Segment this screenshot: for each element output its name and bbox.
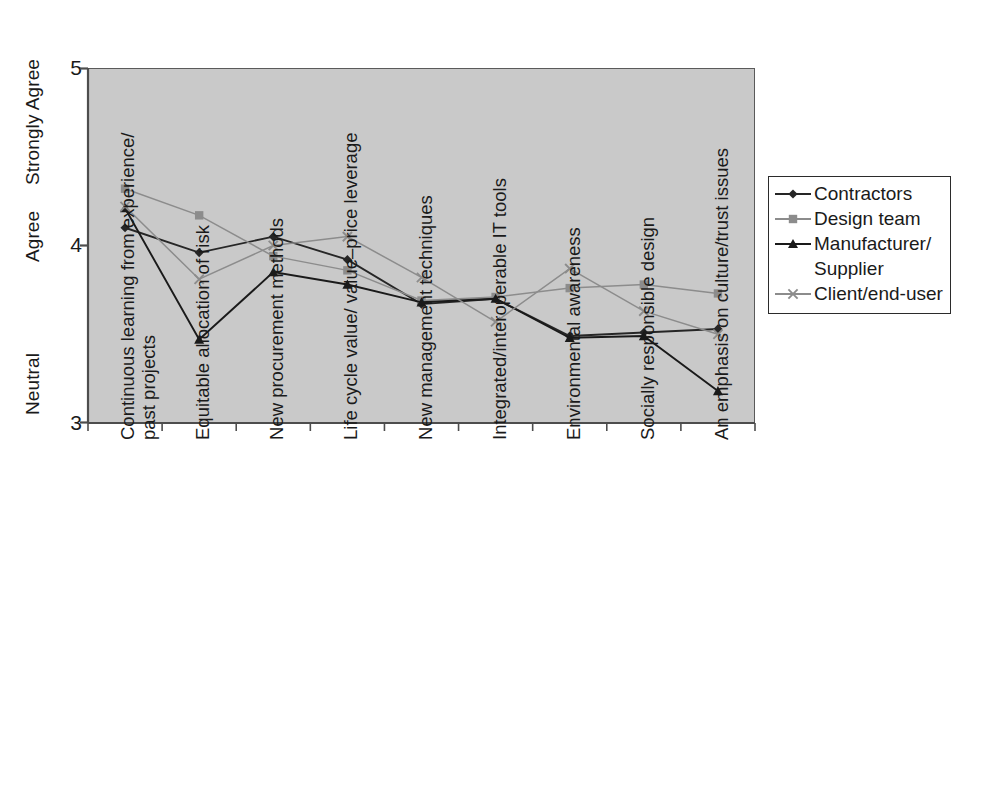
- x-axis-label-line: New procurement methods: [266, 218, 287, 440]
- legend: ContractorsDesign teamManufacturer/Suppl…: [768, 176, 951, 314]
- x-axis-label-line: Life cycle value/ value–price leverage: [340, 133, 361, 440]
- x-axis-label-1: Continuous learning from experience/past…: [117, 133, 159, 440]
- y-axis-tick-5: 5: [56, 56, 82, 80]
- data-point-square: [789, 215, 797, 223]
- x-axis-label-line: Environmental awareness: [563, 227, 584, 440]
- x-axis-label-3: New procurement methods: [266, 218, 287, 440]
- y-axis-label-strongly-agree: Strongly Agree: [22, 59, 44, 185]
- x-axis-label-2: Equitable allocation of risk: [192, 225, 213, 440]
- data-point-diamond: [788, 189, 797, 198]
- x-axis-label-7: Environmental awareness: [563, 227, 584, 440]
- x-axis-label-line: Socially responsible design: [637, 217, 658, 440]
- x-axis-label-5: New management techniques: [415, 195, 436, 440]
- x-axis-label-line: New management techniques: [415, 195, 436, 440]
- legend-marker-cross: [774, 282, 812, 305]
- legend-label-client-end-user: Client/end-user: [814, 282, 943, 305]
- x-axis-label-6: Integrated/interoperable IT tools: [489, 178, 510, 440]
- legend-item-client-end-user[interactable]: Client/end-user: [774, 282, 943, 307]
- legend-item-contractors[interactable]: Contractors: [774, 182, 943, 207]
- legend-label-manufacturer-supplier: Manufacturer/: [814, 232, 931, 255]
- x-axis-label-line: Integrated/interoperable IT tools: [489, 178, 510, 440]
- legend-item-manufacturer-supplier[interactable]: Manufacturer/: [774, 232, 943, 257]
- legend-marker-diamond: [774, 182, 812, 205]
- line-chart: Strongly Agree Agree Neutral 5 4 3 Conti…: [0, 0, 992, 804]
- legend-label-manufacturer-supplier-line2: Supplier: [814, 257, 884, 280]
- data-point-square: [195, 211, 203, 219]
- y-axis-label-neutral: Neutral: [22, 353, 44, 415]
- x-axis-label-4: Life cycle value/ value–price leverage: [340, 133, 361, 440]
- x-axis-label-line: An emphasis on culture/trust issues: [711, 148, 732, 440]
- y-axis-label-agree: Agree: [22, 211, 44, 262]
- legend-item-manufacturer-supplier-line2: Supplier: [774, 257, 943, 282]
- legend-marker-triangle: [774, 232, 812, 255]
- x-axis-label-line: Continuous learning from experience/: [117, 133, 138, 440]
- legend-label-contractors: Contractors: [814, 182, 912, 205]
- y-axis-tick-3: 3: [56, 411, 82, 435]
- x-axis-label-line: past projects: [138, 133, 159, 440]
- x-axis-label-line: Equitable allocation of risk: [192, 225, 213, 440]
- legend-label-design-team: Design team: [814, 207, 921, 230]
- x-axis-label-8: Socially responsible design: [637, 217, 658, 440]
- x-axis-label-9: An emphasis on culture/trust issues: [711, 148, 732, 440]
- legend-item-design-team[interactable]: Design team: [774, 207, 943, 232]
- legend-marker-square: [774, 207, 812, 230]
- y-axis-tick-4: 4: [56, 233, 82, 257]
